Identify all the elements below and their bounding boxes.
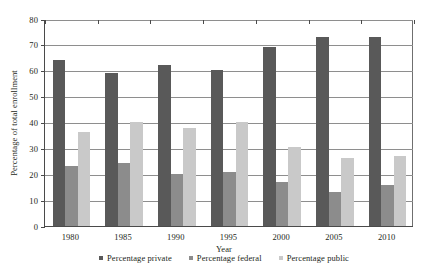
x-axis-tick xyxy=(361,20,362,24)
x-axis-tick-label: 1990 xyxy=(167,232,184,242)
y-axis-tick-label: 20 xyxy=(12,170,38,180)
bar xyxy=(130,122,143,226)
y-axis-tick xyxy=(41,201,45,202)
x-axis-tick xyxy=(414,20,415,24)
bar xyxy=(65,166,78,226)
y-axis-tick xyxy=(41,71,45,72)
x-axis-tick-label: 1985 xyxy=(114,232,131,242)
x-axis-tick xyxy=(150,20,151,24)
gridline xyxy=(45,123,413,124)
bar xyxy=(105,73,118,226)
bar xyxy=(118,163,131,225)
x-axis-tick-label: 2005 xyxy=(325,232,342,242)
gridline xyxy=(45,71,413,72)
y-axis-tick-label: 10 xyxy=(12,196,38,206)
y-axis-tick-label: 30 xyxy=(12,144,38,154)
legend-swatch-icon xyxy=(189,256,193,260)
gridline xyxy=(45,20,413,21)
x-axis-tick xyxy=(98,20,99,24)
y-axis-tick-label: 80 xyxy=(12,15,38,25)
bar xyxy=(263,47,276,226)
legend-item: Percentage public xyxy=(279,253,349,263)
legend-label: Percentage federal xyxy=(197,253,262,263)
y-axis-tick-label: 40 xyxy=(12,118,38,128)
legend-label: Percentage private xyxy=(107,253,172,263)
gridline xyxy=(45,45,413,46)
bar xyxy=(316,37,329,226)
y-axis-tick xyxy=(41,227,45,228)
x-axis-tick-label: 2000 xyxy=(273,232,290,242)
legend-label: Percentage public xyxy=(287,253,349,263)
bar xyxy=(53,60,66,226)
y-axis-tick-label: 60 xyxy=(12,66,38,76)
gridline xyxy=(45,149,413,150)
bar xyxy=(276,182,289,226)
bar xyxy=(158,65,171,225)
y-axis-tick xyxy=(41,149,45,150)
legend-swatch-icon xyxy=(99,256,103,260)
gridline xyxy=(45,97,413,98)
bar xyxy=(381,185,394,225)
y-axis-tick xyxy=(41,97,45,98)
x-axis-tick xyxy=(45,20,46,24)
x-axis-title: Year xyxy=(0,244,448,254)
bar xyxy=(183,128,196,225)
plot-area xyxy=(44,20,413,227)
legend-item: Percentage private xyxy=(99,253,172,263)
x-axis-tick-label: 2010 xyxy=(378,232,395,242)
legend-item: Percentage federal xyxy=(189,253,262,263)
bar xyxy=(171,174,184,226)
bar xyxy=(288,147,301,226)
y-axis-tick xyxy=(41,175,45,176)
bar xyxy=(341,158,354,225)
y-axis-tick-label: 70 xyxy=(12,40,38,50)
legend-swatch-icon xyxy=(279,256,283,260)
bar xyxy=(78,132,91,225)
bar xyxy=(236,122,249,226)
chart-legend: Percentage privatePercentage federalPerc… xyxy=(0,253,448,263)
y-axis-tick xyxy=(41,45,45,46)
x-axis-tick xyxy=(256,20,257,24)
bar xyxy=(369,37,382,226)
x-axis-tick-label: 1980 xyxy=(62,232,79,242)
x-axis-tick xyxy=(203,20,204,24)
y-axis-tick-label: 0 xyxy=(12,222,38,232)
bar xyxy=(223,172,236,225)
bar-chart: Percentage of total enrollment Year Perc… xyxy=(0,0,448,275)
bar xyxy=(211,70,224,225)
bar xyxy=(394,156,407,226)
x-axis-tick xyxy=(309,20,310,24)
y-axis-tick xyxy=(41,123,45,124)
y-axis-tick-label: 50 xyxy=(12,92,38,102)
bar xyxy=(329,192,342,226)
x-axis-tick-label: 1995 xyxy=(220,232,237,242)
